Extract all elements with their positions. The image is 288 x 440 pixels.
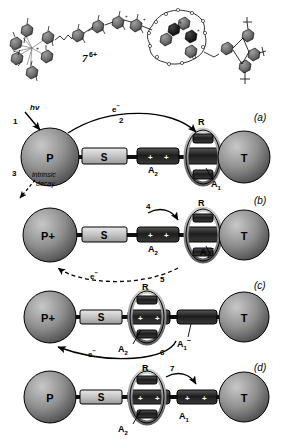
panel-letter-a: (a) bbox=[254, 113, 266, 123]
metal-complex-group: + bbox=[10, 18, 54, 81]
label-intrinsic-a: intrinsic bbox=[32, 171, 56, 178]
acceptor2-charge-2-a: + bbox=[164, 153, 169, 162]
panel-c: P+ S + + T bbox=[24, 291, 269, 359]
label-electron-b: e− bbox=[90, 270, 98, 281]
bond-ring1-ring2 bbox=[84, 27, 93, 33]
arrow-electron-c bbox=[58, 341, 176, 359]
charge-plus-1: + bbox=[125, 14, 128, 19]
label-step-3: 3 bbox=[12, 170, 16, 178]
label-step-2: 2 bbox=[119, 117, 123, 125]
panel-b: P+ S + + T bbox=[23, 208, 269, 282]
panel-letter-d: (d) bbox=[254, 363, 266, 373]
label-acceptor1-a: A1 bbox=[211, 180, 221, 191]
sphere-label-t-c: T bbox=[241, 312, 248, 324]
structure-label: 7 bbox=[82, 52, 88, 64]
leader-a1-c bbox=[188, 324, 191, 337]
label-step-5: 5 bbox=[160, 276, 164, 284]
label-acceptor1-b: A1− bbox=[200, 245, 214, 259]
label-acceptor2-a: A2 bbox=[148, 166, 158, 177]
acceptor1-c bbox=[177, 310, 217, 324]
figure-root: + + + bbox=[0, 0, 288, 440]
acceptor2-charge-2-d: + bbox=[155, 394, 160, 403]
sphere-label-t-b: T bbox=[241, 230, 248, 242]
acceptor2-charge-1-c: + bbox=[138, 314, 143, 323]
bipyridinium-unit-1: + + bbox=[112, 11, 146, 33]
spacer-label-c: S bbox=[98, 312, 105, 323]
label-electron-c: e− bbox=[88, 348, 96, 359]
stopper-group bbox=[221, 17, 266, 84]
metal-center-charge-label: + bbox=[36, 45, 39, 51]
phenyl-ring-2 bbox=[92, 20, 104, 33]
label-hv-a: hν bbox=[30, 104, 39, 112]
label-step-1: 1 bbox=[13, 118, 17, 126]
acceptor2-charge-1-b: + bbox=[148, 231, 153, 240]
acceptor1-d bbox=[177, 390, 217, 404]
label-acceptor2-d: A2 bbox=[118, 425, 128, 436]
sphere-label-p-c: P+ bbox=[41, 312, 55, 324]
panel-d: P S + + + + T bbox=[24, 371, 269, 424]
acceptor2-charge-1-d: + bbox=[138, 394, 143, 403]
spacer-label-b: S bbox=[101, 230, 108, 241]
label-acceptor1-c: A1− bbox=[177, 337, 191, 351]
arrow-step7-d bbox=[166, 373, 196, 384]
label-acceptor1-d: A1 bbox=[179, 412, 189, 423]
label-ring-r-d: R bbox=[142, 364, 149, 373]
label-step-4: 4 bbox=[146, 203, 150, 211]
sphere-label-p-b: P+ bbox=[41, 230, 55, 242]
label-acceptor2-b: A2 bbox=[148, 245, 158, 256]
panel-letter-c: (c) bbox=[254, 281, 266, 291]
acceptor1-charge-1-d: + bbox=[185, 394, 190, 403]
charge-plus-4: + bbox=[197, 28, 200, 33]
spacer-label-d: S bbox=[98, 392, 105, 403]
acceptor2-charge-2-b: + bbox=[164, 231, 169, 240]
arrow-electron-a bbox=[68, 113, 196, 133]
macrocycle-ring: + + bbox=[142, 8, 207, 65]
acceptor2-b bbox=[137, 227, 179, 242]
figure-svg: + + + bbox=[0, 0, 288, 440]
chain-right bbox=[204, 52, 219, 57]
label-ring-r-c: R bbox=[142, 283, 149, 292]
label-electron-a: e− bbox=[112, 103, 120, 114]
label-step-7: 7 bbox=[170, 365, 174, 373]
sphere-label-t-d: T bbox=[241, 392, 248, 404]
acceptor1-charge-2-d: + bbox=[202, 394, 207, 403]
acceptor2-a bbox=[137, 148, 179, 164]
sphere-label-p-a: P bbox=[46, 152, 53, 164]
phenyl-ring-1 bbox=[72, 29, 84, 42]
alkyl-chain-left bbox=[55, 35, 72, 40]
charge-plus-2: + bbox=[143, 17, 146, 22]
sphere-label-p-d: P bbox=[46, 392, 53, 404]
panel-a: P S + + T bbox=[20, 112, 270, 198]
arrow-hv-a bbox=[25, 112, 40, 130]
sphere-label-t-a: T bbox=[241, 152, 248, 164]
acceptor2-charge-2-c: + bbox=[155, 314, 160, 323]
label-step-6: 6 bbox=[160, 349, 164, 357]
label-ring-r-b: R bbox=[198, 199, 205, 208]
arrow-decay-a bbox=[20, 180, 35, 198]
panel-letter-b: (b) bbox=[254, 196, 266, 206]
chemical-structure-diagram: + + + bbox=[10, 8, 266, 84]
arrow-step4-b bbox=[148, 209, 178, 220]
spacer-label-a: S bbox=[101, 152, 108, 163]
label-acceptor2-c: A2 bbox=[118, 345, 128, 356]
acceptor2-charge-1-a: + bbox=[148, 153, 153, 162]
charge-plus-3: + bbox=[179, 20, 182, 25]
structure-charge: 6+ bbox=[89, 51, 97, 58]
structure-label-group: 7 6+ bbox=[82, 51, 97, 64]
label-ring-r-a: R bbox=[198, 118, 205, 127]
label-decay-a: decay bbox=[36, 180, 55, 187]
